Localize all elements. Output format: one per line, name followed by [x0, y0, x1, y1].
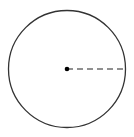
center-point [65, 67, 70, 72]
diagram-canvas [0, 0, 134, 137]
circle-diagram [0, 0, 134, 137]
